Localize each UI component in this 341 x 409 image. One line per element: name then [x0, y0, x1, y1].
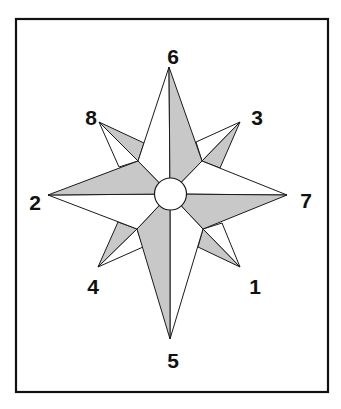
point-label-1: 1 — [249, 275, 261, 298]
center-hub-circle — [155, 178, 187, 210]
point-label-5: 5 — [167, 349, 179, 372]
point-label-8: 8 — [85, 106, 97, 129]
point-label-3: 3 — [251, 106, 263, 129]
point-label-2: 2 — [29, 191, 41, 214]
point-label-7: 7 — [300, 189, 312, 212]
compass-rose-diagram: 68327415 — [0, 0, 341, 409]
point-label-4: 4 — [87, 275, 99, 298]
point-label-6: 6 — [167, 45, 179, 68]
